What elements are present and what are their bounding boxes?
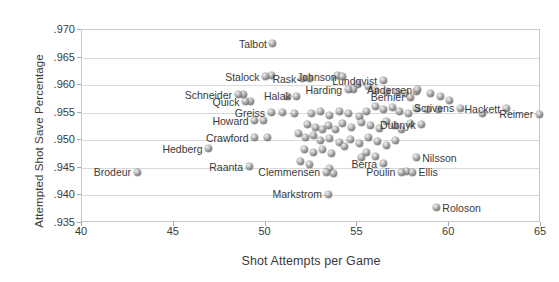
x-tick-mark (173, 222, 174, 226)
point-label-halak: Halak (264, 90, 291, 102)
data-point (392, 137, 399, 144)
plot-area: TalbotStalockRaskJohnsonLundqvistAnderse… (81, 29, 540, 222)
data-point (297, 158, 304, 165)
data-point (325, 122, 332, 129)
x-tick-mark (540, 222, 541, 226)
x-tick-label: 65 (520, 225, 559, 237)
data-point (348, 124, 355, 131)
data-point (291, 110, 298, 117)
data-point (279, 109, 286, 116)
data-point-halak (293, 93, 300, 100)
point-label-rask: Rask (272, 73, 296, 85)
data-point-andersen (414, 86, 421, 93)
point-label-johnson: Johnson (297, 71, 337, 83)
point-label-crawford: Crawford (206, 132, 249, 144)
data-point (326, 135, 333, 142)
scatter-chart: Attempted Shot Save Percentage Shot Atte… (0, 0, 559, 282)
x-tick-mark (265, 222, 266, 226)
y-tick-label: .950 (35, 133, 75, 145)
point-label-nilsson: Nilsson (422, 152, 456, 164)
data-point (310, 132, 317, 139)
data-point-quick (242, 98, 249, 105)
data-point (358, 119, 365, 126)
data-point (383, 142, 390, 149)
data-point (339, 120, 346, 127)
point-label-talbot: Talbot (239, 38, 267, 50)
data-point-talbot (269, 40, 276, 47)
point-label-bernier: Bernier (371, 91, 405, 103)
data-point-clemmensen (323, 169, 330, 176)
data-point (341, 143, 348, 150)
data-point (365, 134, 372, 141)
x-tick-label: 55 (336, 225, 376, 237)
data-point (405, 110, 412, 117)
y-tick-label: .940 (35, 188, 75, 200)
point-label-reimer: Reimer (499, 108, 533, 120)
data-point (330, 170, 337, 177)
data-point-hedberg (205, 145, 212, 152)
data-point (347, 136, 354, 143)
data-point (356, 140, 363, 147)
data-point (363, 108, 370, 115)
data-point-poulin (398, 169, 405, 176)
data-point (317, 108, 324, 115)
x-tick-label: 40 (61, 225, 101, 237)
point-label-roloson: Roloson (442, 202, 481, 214)
data-point (264, 134, 271, 141)
point-label-stalock: Stalock (225, 71, 259, 83)
data-point-greiss (268, 109, 275, 116)
gridline (82, 140, 539, 141)
point-label-hackett: Hackett (465, 103, 501, 115)
data-point-stalock (262, 73, 269, 80)
data-point (380, 106, 387, 113)
x-tick-mark (356, 222, 357, 226)
data-point (437, 93, 444, 100)
point-label-markstrom: Markstrom (272, 188, 322, 200)
data-point (389, 104, 396, 111)
data-point (304, 121, 311, 128)
data-point (374, 138, 381, 145)
y-tick-label: .945 (35, 161, 75, 173)
data-point (317, 137, 324, 144)
data-point-markstrom (325, 191, 332, 198)
data-point (336, 108, 343, 115)
point-label-howard: Howard (212, 115, 248, 127)
data-point (367, 122, 374, 129)
data-point (308, 110, 315, 117)
data-point (332, 126, 339, 133)
data-point (312, 124, 319, 131)
data-point (295, 130, 302, 137)
point-label-clemmensen: Clemmensen (258, 166, 320, 178)
point-label-poulin: Poulin (366, 166, 395, 178)
x-tick-label: 60 (428, 225, 468, 237)
y-tick-label: .960 (35, 78, 75, 90)
point-label-hedberg: Hedberg (162, 143, 202, 155)
data-point-dubnyk (418, 121, 425, 128)
y-tick-label: .955 (35, 106, 75, 118)
data-point (319, 146, 326, 153)
point-label-ellis: Ellis (418, 166, 437, 178)
x-tick-mark (81, 222, 82, 226)
data-point-nilsson (413, 154, 420, 161)
data-point (310, 149, 317, 156)
data-point (345, 110, 352, 117)
data-point (301, 146, 308, 153)
point-label-harding: Harding (305, 84, 342, 96)
data-point-raanta (246, 163, 253, 170)
point-label-dubnyk: Dubnyk (380, 119, 416, 131)
data-point (396, 108, 403, 115)
data-point-ellis (409, 169, 416, 176)
data-point (328, 150, 335, 157)
x-axis-title: Shot Attempts per Game (81, 254, 541, 268)
data-point-reimer (536, 111, 543, 118)
y-tick-label: .965 (35, 51, 75, 63)
data-point (326, 112, 333, 119)
data-point (372, 103, 379, 110)
x-tick-label: 50 (245, 225, 285, 237)
gridline (82, 58, 539, 59)
data-point-brodeur (134, 169, 141, 176)
point-label-scrivens: Scrivens (414, 102, 454, 114)
data-point (427, 90, 434, 97)
point-label-raanta: Raanta (209, 161, 243, 173)
x-tick-mark (448, 222, 449, 226)
